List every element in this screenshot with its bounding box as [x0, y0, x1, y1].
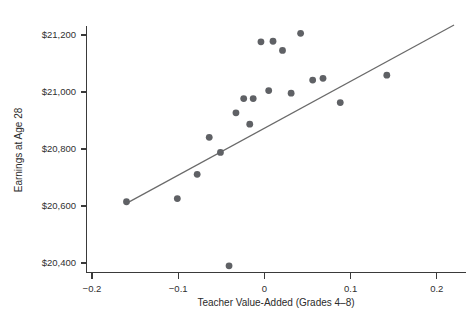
- data-point: [383, 72, 390, 79]
- data-point: [279, 47, 286, 54]
- data-point: [206, 134, 213, 141]
- data-point: [297, 30, 304, 37]
- data-point: [233, 109, 240, 116]
- data-points-group: [123, 30, 390, 269]
- x-axis-ticks: [92, 273, 437, 280]
- data-point: [265, 87, 272, 94]
- data-point: [320, 75, 327, 82]
- data-point: [258, 38, 265, 45]
- data-point: [194, 171, 201, 178]
- x-tick-label: −0.1: [169, 283, 188, 294]
- data-point: [288, 90, 295, 97]
- x-tick-label: 0.1: [344, 283, 357, 294]
- y-tick-label: $21,000: [42, 86, 76, 97]
- data-point: [250, 95, 257, 102]
- x-tick-label: −0.2: [83, 283, 102, 294]
- x-tick-label: 0.2: [430, 283, 443, 294]
- y-tick-label: $20,400: [42, 257, 76, 268]
- data-point: [246, 121, 253, 128]
- data-point: [217, 149, 224, 156]
- data-point: [240, 95, 247, 102]
- y-axis-title: Earnings at Age 28: [13, 107, 24, 192]
- regression-trend-line: [127, 25, 454, 203]
- data-point: [123, 198, 130, 205]
- data-point: [174, 195, 181, 202]
- data-point: [309, 77, 316, 84]
- y-tick-label: $20,800: [42, 143, 76, 154]
- y-tick-label: $20,600: [42, 200, 76, 211]
- x-axis-title: Teacher Value-Added (Grades 4–8): [197, 297, 354, 308]
- x-axis-tick-labels: −0.2−0.100.10.2: [83, 283, 444, 294]
- data-point: [270, 38, 277, 45]
- x-tick-label: 0: [262, 283, 267, 294]
- y-axis-tick-labels: $20,400$20,600$20,800$21,000$21,200: [42, 29, 76, 268]
- y-axis-ticks: [81, 35, 87, 263]
- scatter-chart-figure: $20,400$20,600$20,800$21,000$21,200 −0.2…: [0, 0, 472, 327]
- plot-area: $20,400$20,600$20,800$21,000$21,200 −0.2…: [0, 0, 472, 327]
- y-tick-label: $21,200: [42, 29, 76, 40]
- data-point: [226, 262, 233, 269]
- data-point: [337, 99, 344, 106]
